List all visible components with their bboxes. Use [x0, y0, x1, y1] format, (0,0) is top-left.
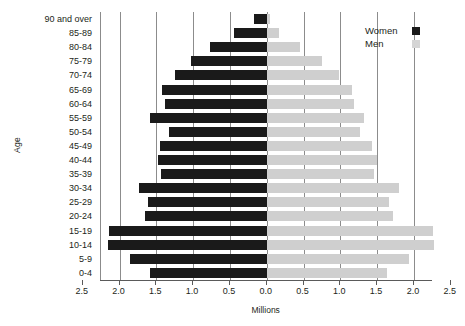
pyramid-row — [101, 97, 432, 111]
legend-label: Men — [365, 37, 383, 50]
bar-women — [161, 169, 267, 179]
bar-men — [267, 240, 434, 250]
pyramid-row — [101, 125, 432, 139]
legend-swatch — [412, 27, 420, 35]
x-tickmark — [303, 280, 304, 285]
age-label: 45-49 — [69, 139, 92, 153]
bar-women — [175, 70, 266, 80]
bar-men — [267, 254, 410, 264]
pyramid-row — [101, 266, 432, 280]
x-tick-label: 1.0 — [175, 286, 209, 296]
x-tick-label: 1.5 — [138, 286, 172, 296]
pyramid-row — [101, 139, 432, 153]
age-label: 85-89 — [69, 26, 92, 40]
pyramid-row — [101, 111, 432, 125]
x-tick-label: 1.0 — [322, 286, 356, 296]
x-tickmark — [192, 280, 193, 285]
pyramid-row — [101, 153, 432, 167]
bar-women — [130, 254, 267, 264]
x-axis-tick-labels: 2.52.01.51.00.50.00.51.01.52.02.5 — [0, 286, 465, 300]
x-axis-label: Millions — [252, 305, 280, 315]
bar-men — [267, 169, 374, 179]
bar-women — [109, 226, 267, 236]
bar-women — [158, 155, 267, 165]
plot-area — [100, 12, 432, 280]
bar-women — [191, 56, 267, 66]
age-label: 10-14 — [69, 238, 92, 252]
bar-women — [160, 141, 267, 151]
x-tickmark — [339, 280, 340, 285]
age-label: 5-9 — [79, 252, 92, 266]
pyramid-row — [101, 68, 432, 82]
bar-women — [210, 42, 267, 52]
bar-men — [267, 113, 364, 123]
x-tick-label: 1.5 — [359, 286, 393, 296]
bar-men — [267, 183, 399, 193]
age-label: 75-79 — [69, 54, 92, 68]
bars-container — [101, 12, 432, 280]
age-label: 25-29 — [69, 195, 92, 209]
population-pyramid-chart: Age 90 and over85-8980-8475-7970-7465-69… — [0, 0, 465, 326]
pyramid-row — [101, 209, 432, 223]
x-tickmark — [450, 280, 451, 285]
bar-men — [267, 42, 300, 52]
pyramid-row — [101, 181, 432, 195]
x-tick-label: 2.0 — [102, 286, 136, 296]
bar-men — [267, 99, 355, 109]
bar-women — [145, 211, 267, 221]
age-label: 65-69 — [69, 83, 92, 97]
legend-swatch — [412, 40, 420, 48]
bar-men — [267, 226, 433, 236]
age-label: 30-34 — [69, 181, 92, 195]
bar-women — [139, 183, 266, 193]
pyramid-row — [101, 54, 432, 68]
age-label: 80-84 — [69, 40, 92, 54]
age-label: 35-39 — [69, 167, 92, 181]
x-tickmark — [82, 280, 83, 285]
legend-label: Women — [365, 24, 398, 37]
pyramid-row — [101, 252, 432, 266]
bar-women — [165, 99, 267, 109]
bar-men — [267, 85, 352, 95]
bar-women — [150, 113, 266, 123]
age-category-labels: 90 and over85-8980-8475-7970-7465-6960-6… — [0, 12, 96, 280]
age-label: 15-19 — [69, 224, 92, 238]
x-tickmark — [376, 280, 377, 285]
x-tick-label: 2.0 — [396, 286, 430, 296]
age-label: 55-59 — [69, 111, 92, 125]
bar-women — [108, 240, 266, 250]
x-tick-label: 0.0 — [249, 286, 283, 296]
age-label: 20-24 — [69, 209, 92, 223]
x-tickmark — [229, 280, 230, 285]
age-label: 40-44 — [69, 153, 92, 167]
x-tick-label: 0.5 — [212, 286, 246, 296]
x-tick-label: 2.5 — [433, 286, 465, 296]
pyramid-row — [101, 195, 432, 209]
x-tick-label: 0.5 — [286, 286, 320, 296]
bar-men — [267, 56, 322, 66]
bar-men — [267, 141, 372, 151]
age-label: 60-64 — [69, 97, 92, 111]
bar-women — [169, 127, 267, 137]
age-label: 70-74 — [69, 68, 92, 82]
pyramid-row — [101, 224, 432, 238]
bar-women — [148, 197, 266, 207]
bar-men — [267, 14, 270, 24]
bar-men — [267, 268, 388, 278]
bar-women — [162, 85, 267, 95]
bar-women — [254, 14, 267, 24]
bar-men — [267, 28, 280, 38]
x-tickmark — [266, 280, 267, 285]
bar-women — [150, 268, 266, 278]
bar-men — [267, 70, 339, 80]
pyramid-row — [101, 167, 432, 181]
pyramid-row — [101, 83, 432, 97]
pyramid-row — [101, 238, 432, 252]
age-label: 0-4 — [79, 266, 92, 280]
age-label: 90 and over — [44, 12, 92, 26]
x-tickmark — [413, 280, 414, 285]
x-tickmark — [119, 280, 120, 285]
x-tickmark — [155, 280, 156, 285]
bar-men — [267, 127, 360, 137]
bar-women — [234, 28, 267, 38]
